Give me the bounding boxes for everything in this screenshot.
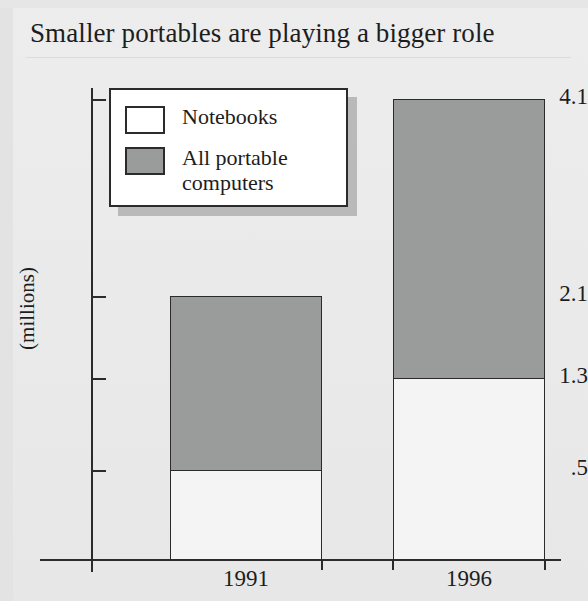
legend-swatch-notebooks-icon — [125, 106, 165, 134]
y-tick-mark-1-3 — [93, 378, 106, 380]
bar-1996-segment-all-portable-computers — [393, 99, 545, 379]
bar-1996-segment-notebooks — [393, 378, 545, 560]
x-axis-label-1996: 1996 — [393, 566, 545, 592]
legend-swatch-all-portable-computers-icon — [125, 147, 165, 175]
bar-1991-segment-all-portable-computers — [170, 296, 322, 471]
legend-label-all-portable-computers: All portable computers — [182, 145, 288, 195]
legend: Notebooks All portable computers — [109, 88, 348, 207]
y-tick-mark-2-1 — [93, 296, 106, 298]
y-axis-title: (millions) — [15, 244, 40, 374]
y-axis-line — [91, 88, 93, 572]
legend-label-notebooks: Notebooks — [182, 104, 277, 129]
y-tick-mark-4-1 — [93, 99, 106, 101]
chart-figure: Smaller portables are playing a bigger r… — [0, 0, 588, 601]
y-tick-mark-0-5 — [93, 470, 106, 472]
legend-item-all-portable-computers: All portable computers — [125, 145, 288, 195]
x-axis-label-1991: 1991 — [170, 566, 322, 592]
bar-1991-segment-notebooks — [170, 470, 322, 560]
plot-area: 4.1 2.1 1.3 .5 (millions) 1991 1996 Note… — [0, 0, 588, 601]
x-tick-mark-left — [91, 559, 93, 570]
legend-item-notebooks: Notebooks — [125, 104, 277, 134]
